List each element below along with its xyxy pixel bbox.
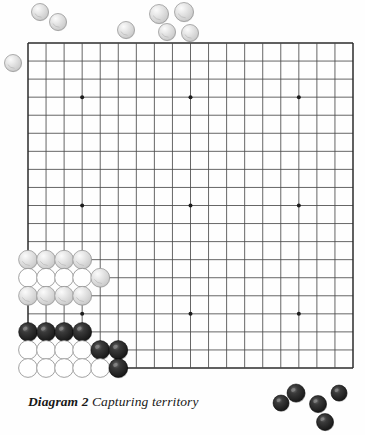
black-stone xyxy=(37,323,56,342)
star-point xyxy=(80,312,84,316)
black-stone xyxy=(19,323,38,342)
diagram-caption: Diagram 2 Capturing territory xyxy=(28,394,268,410)
white-stone xyxy=(19,268,38,287)
go-diagram-figure: Diagram 2 Capturing territory xyxy=(0,0,365,435)
black-stone xyxy=(109,359,128,378)
white-stone xyxy=(55,286,74,305)
captured-black-stone xyxy=(317,414,334,431)
star-point xyxy=(189,95,193,99)
white-stone xyxy=(19,359,38,378)
black-stone xyxy=(55,323,74,342)
star-point xyxy=(297,312,301,316)
captured-white-stone xyxy=(150,5,169,24)
white-stone xyxy=(91,268,110,287)
black-stone xyxy=(91,341,110,360)
black-stone xyxy=(73,323,92,342)
star-point xyxy=(297,95,301,99)
white-stone xyxy=(55,341,74,360)
white-stone xyxy=(55,250,74,269)
captured-white-stone xyxy=(50,14,67,31)
black-stone xyxy=(109,341,128,360)
captured-black-stone xyxy=(310,396,327,413)
white-stone xyxy=(37,250,56,269)
white-stone xyxy=(19,286,38,305)
star-point xyxy=(80,95,84,99)
white-stone xyxy=(19,250,38,269)
go-board[interactable] xyxy=(0,0,365,435)
white-stone xyxy=(37,268,56,287)
white-stone xyxy=(37,341,56,360)
captured-white-stones xyxy=(5,3,200,73)
white-stone xyxy=(73,359,92,378)
white-stone xyxy=(37,359,56,378)
white-stone xyxy=(91,359,110,378)
captured-white-stone xyxy=(175,3,194,22)
captured-white-stone xyxy=(118,22,135,39)
captured-black-stone xyxy=(331,385,347,401)
white-stone xyxy=(55,268,74,287)
star-point xyxy=(297,204,301,208)
captured-black-stones xyxy=(273,384,348,431)
white-stone xyxy=(73,341,92,360)
captured-white-stone xyxy=(182,25,199,42)
white-stone xyxy=(73,250,92,269)
caption-label: Diagram 2 xyxy=(28,394,89,409)
white-stone xyxy=(55,359,74,378)
star-point xyxy=(189,312,193,316)
captured-black-stone xyxy=(273,395,289,411)
white-stone xyxy=(73,268,92,287)
captured-white-stone xyxy=(5,55,22,72)
star-point xyxy=(189,204,193,208)
white-stone xyxy=(37,286,56,305)
captured-black-stone xyxy=(287,384,305,402)
caption-text: Capturing territory xyxy=(92,394,199,409)
star-point xyxy=(80,204,84,208)
white-stone xyxy=(73,286,92,305)
white-stone xyxy=(19,341,38,360)
captured-white-stone xyxy=(159,24,176,41)
captured-white-stone xyxy=(32,4,49,21)
